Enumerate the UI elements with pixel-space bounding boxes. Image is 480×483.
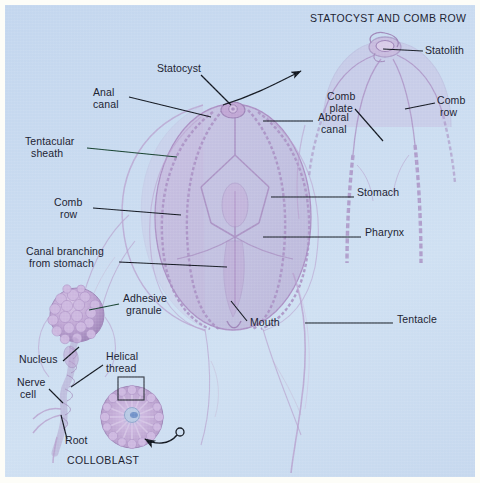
adhesive-granule-cluster (48, 285, 104, 344)
colloblast-rosette (100, 385, 163, 448)
label-tentacle: Tentacle (397, 314, 437, 326)
label-adhesive-granule: Adhesive granule (123, 293, 167, 316)
label-tentacular-sheath: Tentacular sheath (25, 136, 74, 159)
magnifier-point (176, 428, 184, 436)
label-pharynx: Pharynx (365, 227, 404, 239)
figure-panel: STATOCYST AND COMB ROW Statolith Statocy… (5, 5, 475, 477)
label-statocyst: Statocyst (157, 63, 201, 75)
label-comb-row-inset: Comb row (437, 95, 465, 118)
diagram-artwork (5, 5, 475, 477)
label-canal-branching: Canal branching from stomach (26, 246, 104, 269)
inset-title: STATOCYST AND COMB ROW (310, 13, 466, 25)
label-anal-canal: Anal canal (93, 87, 119, 110)
label-stomach: Stomach (357, 187, 399, 199)
label-aboral-canal: Aboral canal (318, 112, 349, 135)
caption-colloblast: COLLOBLAST (67, 455, 139, 467)
label-helical-thread: Helical thread (106, 351, 138, 374)
label-statolith: Statolith (425, 45, 464, 57)
label-root: Root (65, 435, 88, 447)
label-nucleus: Nucleus (19, 354, 58, 366)
label-comb-row-main: Comb row (54, 197, 82, 220)
label-mouth: Mouth (250, 317, 280, 329)
label-nerve-cell: Nerve cell (17, 377, 46, 400)
zoom-arrow (223, 71, 301, 105)
